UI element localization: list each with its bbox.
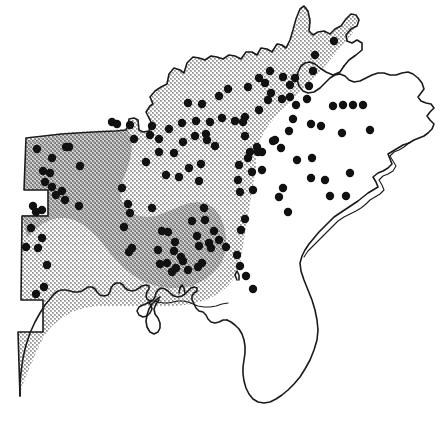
locality-dot xyxy=(293,156,301,164)
locality-dot xyxy=(255,74,263,82)
locality-dot xyxy=(40,283,48,291)
locality-dot xyxy=(307,120,315,128)
locality-dot xyxy=(278,95,286,103)
locality-dot xyxy=(193,232,201,240)
locality-dot xyxy=(126,121,134,129)
locality-dot xyxy=(38,206,46,214)
map-canvas xyxy=(0,0,447,440)
locality-dot xyxy=(249,186,257,194)
locality-dot xyxy=(75,202,83,210)
locality-dot xyxy=(244,154,252,162)
locality-dot xyxy=(359,101,367,109)
locality-dot xyxy=(249,285,257,293)
locality-dot xyxy=(148,122,156,130)
locality-dot xyxy=(321,176,329,184)
locality-dot xyxy=(258,166,266,174)
locality-dot xyxy=(184,266,192,274)
distribution-map-figure xyxy=(0,0,447,440)
locality-dot xyxy=(200,204,208,212)
locality-dot xyxy=(43,261,51,269)
locality-dot xyxy=(146,131,154,139)
locality-dot xyxy=(279,184,287,192)
locality-dot xyxy=(27,224,35,232)
locality-dot xyxy=(342,192,350,200)
locality-dot xyxy=(279,73,287,81)
locality-dot xyxy=(185,164,193,172)
locality-dot xyxy=(309,67,317,75)
locality-dot xyxy=(179,257,187,265)
locality-dot xyxy=(242,272,250,280)
locality-dot xyxy=(241,132,249,140)
locality-dot xyxy=(65,143,73,151)
locality-dot xyxy=(118,184,126,192)
locality-dot xyxy=(255,106,263,114)
locality-dot xyxy=(258,148,266,156)
locality-dot xyxy=(308,154,316,162)
locality-dot xyxy=(188,217,196,225)
locality-dot xyxy=(244,83,252,91)
locality-dot xyxy=(165,125,173,133)
locality-dot xyxy=(170,247,178,255)
locality-dot xyxy=(222,243,230,251)
locality-dot xyxy=(194,263,202,271)
locality-dot xyxy=(292,101,300,109)
locality-dot xyxy=(207,244,215,252)
locality-dot xyxy=(32,290,40,298)
locality-dot xyxy=(303,95,311,103)
locality-dot xyxy=(124,200,132,208)
locality-dot xyxy=(198,100,206,108)
locality-dot xyxy=(224,85,232,93)
locality-dot xyxy=(206,118,214,126)
locality-dot xyxy=(234,176,242,184)
locality-dot xyxy=(195,242,203,250)
locality-dot xyxy=(168,268,176,276)
locality-dot xyxy=(38,234,46,242)
locality-dot xyxy=(164,228,172,236)
locality-dot xyxy=(120,223,128,231)
locality-dot xyxy=(236,262,244,270)
locality-dot xyxy=(48,154,56,162)
locality-dot xyxy=(155,148,163,156)
locality-dot xyxy=(211,142,219,150)
locality-dot xyxy=(170,149,178,157)
locality-dot xyxy=(285,127,293,135)
locality-dot xyxy=(76,162,84,170)
locality-dot xyxy=(239,118,247,126)
locality-dot xyxy=(346,169,354,177)
locality-dot xyxy=(126,209,134,217)
locality-dot xyxy=(326,192,334,200)
locality-dot xyxy=(233,251,241,259)
locality-dot xyxy=(130,135,138,143)
locality-dot xyxy=(155,135,163,143)
locality-dot xyxy=(22,243,30,251)
locality-dot xyxy=(34,244,42,252)
locality-dot xyxy=(349,101,357,109)
locality-dot xyxy=(286,93,294,101)
locality-dot xyxy=(154,246,162,254)
locality-dot xyxy=(307,174,315,182)
locality-dot xyxy=(284,208,292,216)
locality-dot xyxy=(241,215,249,223)
locality-dot xyxy=(275,193,283,201)
locality-dot xyxy=(171,238,179,246)
locality-dot xyxy=(291,74,299,82)
locality-dot xyxy=(317,122,325,130)
locality-dot xyxy=(41,178,49,186)
locality-dot xyxy=(175,173,183,181)
locality-dot xyxy=(191,132,199,140)
locality-dot xyxy=(215,92,223,100)
locality-dot xyxy=(237,226,245,234)
locality-dot xyxy=(46,169,54,177)
locality-dot xyxy=(311,51,319,59)
locality-dot xyxy=(266,67,274,75)
locality-dot xyxy=(156,260,164,268)
locality-dot xyxy=(329,102,337,110)
locality-dot xyxy=(162,171,170,179)
locality-dot xyxy=(178,119,186,127)
locality-dot xyxy=(192,117,200,125)
locality-dot xyxy=(339,101,347,109)
locality-dot xyxy=(202,130,210,138)
locality-dot xyxy=(125,248,133,256)
locality-dot xyxy=(197,160,205,168)
locality-dot xyxy=(235,161,243,169)
